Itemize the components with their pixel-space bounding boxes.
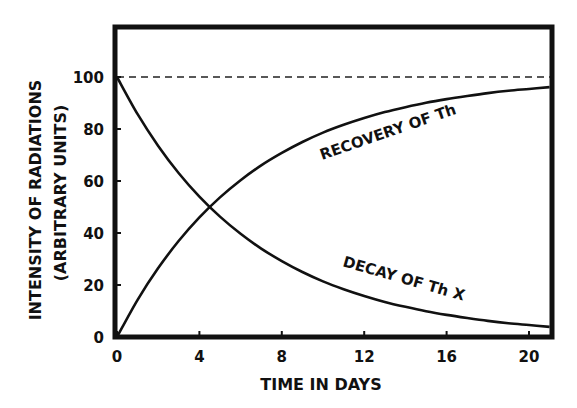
recovery-curve	[117, 87, 550, 337]
y-tick-label: 20	[83, 277, 104, 295]
decay-curve	[117, 77, 550, 327]
y-tick-label: 0	[94, 329, 104, 347]
x-tick-label: 20	[519, 348, 540, 366]
annotation-decay: DECAY OF Th X	[341, 253, 467, 305]
plot-frame	[115, 27, 552, 337]
y-tick-label: 80	[83, 121, 104, 139]
y-tick-label: 100	[73, 69, 104, 87]
x-tick-label: 4	[194, 348, 204, 366]
annotation-recovery: RECOVERY OF Th	[317, 100, 458, 164]
x-tick-label: 8	[277, 348, 287, 366]
x-tick-label: 12	[354, 348, 375, 366]
y-tick-label: 60	[83, 173, 104, 191]
y-tick-label: 40	[83, 225, 104, 243]
y-axis-sublabel: (ARBITRARY UNITS)	[51, 105, 70, 281]
y-axis-label: INTENSITY OF RADIATIONS	[26, 80, 45, 321]
x-tick-label: 16	[436, 348, 457, 366]
chart: 020406080100 048121620 RECOVERY OF Th DE…	[0, 0, 577, 408]
x-tick-label: 0	[112, 348, 122, 366]
x-axis-label: TIME IN DAYS	[260, 375, 381, 394]
